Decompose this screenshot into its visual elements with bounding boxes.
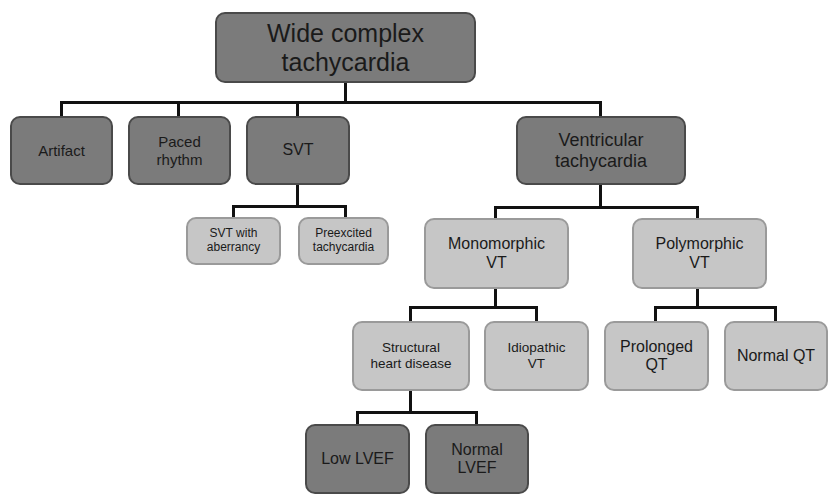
connector [356,411,478,414]
connector [494,288,497,308]
node-structural-heart-disease: Structural heart disease [352,321,470,391]
node-label: Paced rhythm [157,133,203,168]
node-label: Wide complex tachycardia [267,19,424,77]
node-label: Normal QT [737,347,815,365]
connector [409,306,412,322]
node-idiopathic-vt: Idiopathic VT [484,321,589,391]
connector [296,184,299,207]
connector [774,306,777,322]
node-label: Prolonged QT [620,338,693,375]
node-ventricular-tachycardia: Ventricular tachycardia [516,116,686,185]
node-wide-complex-tachycardia: Wide complex tachycardia [215,12,476,83]
connector [296,101,299,117]
node-label: Monomorphic VT [448,235,545,272]
connector [654,306,777,309]
node-label: SVT [282,141,313,159]
connector [696,288,699,308]
node-paced-rhythm: Paced rhythm [128,116,231,185]
connector [475,411,478,425]
node-low-lvef: Low LVEF [305,424,410,494]
node-label: Polymorphic VT [655,235,743,272]
connector [599,101,602,117]
connector [494,206,699,209]
node-normal-qt: Normal QT [724,321,828,391]
node-svt-with-aberrancy: SVT with aberrancy [186,217,281,265]
node-label: Artifact [38,142,85,159]
connector [232,205,347,208]
connector [60,101,602,104]
node-normal-lvef: Normal LVEF [425,424,529,494]
node-prolonged-qt: Prolonged QT [604,321,709,391]
flowchart: Wide complex tachycardia Artifact Paced … [0,0,831,502]
connector [60,101,63,117]
connector [599,184,602,208]
connector [177,101,180,117]
node-label: Low LVEF [321,450,394,468]
node-label: Normal LVEF [451,441,503,478]
connector [654,306,657,322]
node-polymorphic-vt: Polymorphic VT [632,218,767,289]
node-label: Preexcited tachycardia [313,227,374,255]
node-label: SVT with aberrancy [207,227,260,255]
node-label: Ventricular tachycardia [555,130,647,171]
node-preexcited-tachycardia: Preexcited tachycardia [298,217,389,265]
connector [535,306,538,322]
node-label: Idiopathic VT [508,340,566,371]
node-label: Structural heart disease [370,340,451,371]
node-svt: SVT [246,116,350,185]
connector [409,390,412,413]
connector [409,306,538,309]
connector [356,411,359,425]
node-monomorphic-vt: Monomorphic VT [424,218,569,289]
node-artifact: Artifact [10,116,113,185]
